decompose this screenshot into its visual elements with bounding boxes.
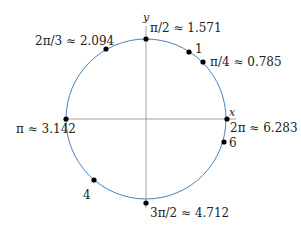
angle-labels: π/4 ≈ 0.785 1 π/2 ≈ 1.571 2π/3 ≈ 2.094 π… (16, 21, 298, 220)
point-six (221, 139, 226, 144)
point-pi-over-4 (200, 59, 205, 64)
point-four (91, 177, 96, 182)
label-pi-over-4: π/4 ≈ 0.785 (210, 55, 282, 69)
x-axis-label: x (229, 106, 236, 119)
point-one (186, 49, 191, 54)
label-one: 1 (195, 42, 203, 56)
y-axis-label: y (142, 11, 150, 24)
point-pi (63, 116, 68, 121)
point-two-pi (224, 116, 229, 121)
angle-points (63, 36, 229, 205)
label-pi-over-2: π/2 ≈ 1.571 (150, 21, 222, 35)
point-three-pi-over-2 (143, 200, 148, 205)
label-two-pi-over-3: 2π/3 ≈ 2.094 (35, 34, 115, 48)
label-four: 4 (83, 188, 91, 202)
label-pi: π ≈ 3.142 (16, 122, 76, 136)
label-two-pi: 2π ≈ 6.283 (230, 121, 298, 135)
label-six: 6 (229, 136, 237, 150)
unit-circle-diagram: x y π/4 ≈ 0.785 1 π/2 ≈ 1.571 2π/3 ≈ 2.0… (0, 0, 301, 228)
label-three-pi-over-2: 3π/2 ≈ 4.712 (150, 206, 229, 220)
point-pi-over-2 (143, 36, 148, 41)
